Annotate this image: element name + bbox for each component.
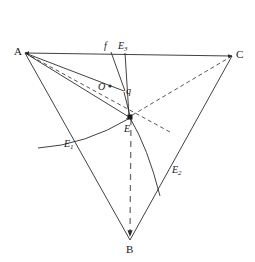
point-label-E2-sub: 2: [178, 169, 182, 177]
dashed-line-E-to-B: [130, 119, 131, 236]
point-label-f: f: [104, 41, 107, 51]
point-label-E1: E1: [64, 139, 74, 149]
vertex-label-A: A: [14, 46, 22, 57]
geometry-figure: A C B E E1 E2 E3 O q f: [0, 0, 255, 262]
solid-line-f-to-q: [111, 52, 125, 91]
point-label-E3: E3: [118, 41, 128, 51]
point-label-f-text: f: [104, 40, 107, 51]
point-label-E: E: [124, 124, 130, 134]
segment-AC: [25, 53, 232, 56]
point-label-E2: E2: [172, 165, 182, 175]
point-marker-O: [108, 84, 111, 87]
point-label-E3-sub: 3: [124, 45, 128, 53]
point-label-E-text: E: [124, 123, 130, 134]
arc-E-to-E2: [130, 118, 160, 196]
dashed-line-C-to-E: [124, 56, 232, 120]
point-marker-E: [128, 115, 133, 120]
point-label-O-text: O: [98, 81, 105, 92]
point-label-q: q: [126, 86, 131, 96]
arc-E1-through-E: [38, 118, 130, 148]
point-label-O: O: [98, 82, 105, 92]
vertex-label-C: C: [236, 49, 243, 60]
segment-CB: [130, 56, 232, 240]
vertex-label-B: B: [126, 244, 133, 255]
solid-line-A-to-E: [25, 53, 129, 117]
point-label-E1-sub: 1: [70, 143, 74, 151]
point-label-q-text: q: [126, 85, 131, 96]
segment-AB: [25, 53, 130, 240]
